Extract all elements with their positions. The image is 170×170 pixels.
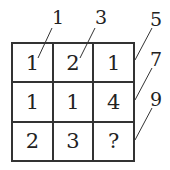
label-7: 7 (150, 50, 162, 69)
label-5: 5 (150, 10, 162, 29)
label-9: 9 (150, 90, 162, 109)
label-1: 1 (52, 8, 64, 27)
pointer-lines (0, 0, 170, 170)
label-3: 3 (95, 8, 107, 27)
